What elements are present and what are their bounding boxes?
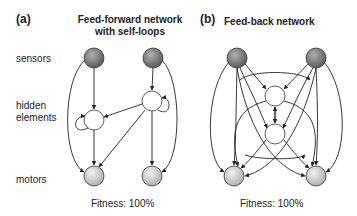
motor-node xyxy=(84,166,104,186)
sensor-node xyxy=(227,48,247,68)
hidden-node xyxy=(142,91,162,111)
network-diagram xyxy=(0,0,357,216)
hidden-node xyxy=(265,86,285,106)
motor-node xyxy=(142,166,162,186)
panel-b-edges xyxy=(210,62,342,176)
motor-node xyxy=(224,166,244,186)
motor-node xyxy=(306,166,326,186)
sensor-node xyxy=(84,48,104,68)
panel-a-edges xyxy=(68,60,177,172)
sensor-node xyxy=(143,48,163,68)
hidden-node xyxy=(265,124,285,144)
panel-a-nodes xyxy=(84,48,163,186)
sensor-node xyxy=(306,48,326,68)
hidden-node xyxy=(84,110,104,130)
